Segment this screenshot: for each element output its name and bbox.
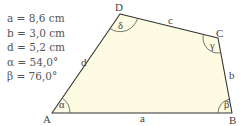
side-label-b: b xyxy=(229,69,235,81)
side-label-c: c xyxy=(168,14,173,26)
vertex-label-b: B xyxy=(229,114,236,126)
side-label-d: d xyxy=(81,56,87,68)
side-label-a: a xyxy=(140,112,145,124)
angle-label-delta: δ xyxy=(118,20,123,31)
angle-label-alpha: α xyxy=(59,99,65,110)
vertex-label-d: D xyxy=(115,1,123,13)
vertex-label-a: A xyxy=(43,113,51,125)
quadrilateral-diagram: α β γ δ A B C D a b c d xyxy=(0,0,242,126)
angle-label-gamma: γ xyxy=(209,40,215,51)
quadrilateral-abcd xyxy=(52,14,232,113)
vertex-label-c: C xyxy=(216,27,223,39)
angle-label-beta: β xyxy=(224,99,229,110)
